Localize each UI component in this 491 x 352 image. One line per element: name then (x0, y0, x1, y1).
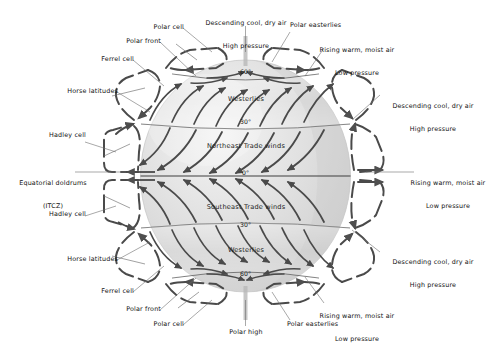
lat-label-30s: 30° (228, 221, 263, 228)
cell-loop-hadley-s-right (351, 180, 383, 228)
lat-label-60n: 60° (228, 68, 263, 75)
label-polar-front-north: Polar front (95, 38, 161, 46)
wind-belt-se-trades: Southeast Trade winds (185, 203, 307, 211)
label-line-2: Low pressure (305, 70, 409, 78)
label-polar-cell-north: Polar cell (118, 24, 184, 32)
circulation-diagram: 60° 30° 0° 30° 60° Westerlies Northeast … (0, 0, 491, 352)
label-polar-easterlies-south: Polar easterlies (287, 321, 367, 329)
label-line-2: Low pressure (405, 203, 491, 211)
leader-hadley-s (104, 196, 130, 208)
leader-ferrel-cell-s-bot (133, 266, 164, 292)
label-line-1: Rising warm, moist air (405, 180, 491, 188)
label-line-2: High pressure (183, 43, 309, 51)
wind-belt-ne-trades: Northeast Trade winds (185, 142, 307, 150)
lat-label-30n: 30° (228, 118, 263, 125)
label-line-1: Equatorial doldrums (5, 180, 101, 188)
label-line-1: Descending cool, dry air (377, 259, 489, 267)
label-line-2: Low pressure (305, 336, 409, 344)
label-descending-air-north-pole: Descending cool, dry air High pressure (183, 5, 309, 66)
cell-loop-polar-s-left (166, 282, 227, 304)
label-line-1: Rising warm, moist air (305, 47, 409, 55)
cell-loop-hadley-n-right-rise (351, 124, 355, 170)
lat-label-equator: 0° (228, 169, 263, 176)
label-descending-air-30-south: Descending cool, dry air High pressure (377, 244, 489, 305)
label-descending-air-30-north: Descending cool, dry air High pressure (377, 88, 489, 149)
label-polar-front-south: Polar front (95, 306, 161, 314)
label-line-2: High pressure (377, 126, 489, 134)
lat-label-60s: 60° (228, 270, 263, 277)
leader-polar-easterlies-s (272, 292, 290, 320)
label-ferrel-cell-north: Ferrel cell (68, 56, 134, 64)
label-horse-latitudes-south: Horse latitudes (36, 256, 118, 264)
leader-ferrel-cell-n-top (133, 60, 164, 86)
label-ferrel-cell-south: Ferrel cell (68, 288, 134, 296)
label-polar-high-south: Polar high (213, 329, 279, 337)
label-polar-easterlies-north: Polar easterlies (290, 22, 370, 30)
label-hadley-cell-south: Hadley cell (20, 211, 86, 219)
leader-descending-30s (352, 230, 380, 252)
label-rising-air-60-north: Rising warm, moist air Low pressure (305, 32, 409, 93)
leader-polar-cell-s-bot (183, 300, 212, 325)
wind-belt-westerlies-n: Westerlies (205, 95, 287, 103)
leader-horse-lat-s (117, 242, 150, 260)
label-polar-cell-south: Polar cell (118, 321, 184, 329)
leader-hadley-n-label (85, 142, 116, 152)
leader-polar-cell-s (178, 292, 199, 308)
wind-belt-westerlies-s: Westerlies (205, 246, 287, 254)
leader-descending-30n (352, 95, 380, 120)
label-horse-latitudes-north: Horse latitudes (36, 88, 118, 96)
leader-hadley-n (104, 144, 130, 156)
label-line-1: Descending cool, dry air (377, 103, 489, 111)
label-rising-air-equator: Rising warm, moist air Low pressure (405, 165, 491, 226)
label-hadley-cell-north: Hadley cell (20, 132, 86, 140)
cell-loop-hadley-n-left-rise (134, 126, 140, 170)
label-line-2: High pressure (377, 282, 489, 290)
